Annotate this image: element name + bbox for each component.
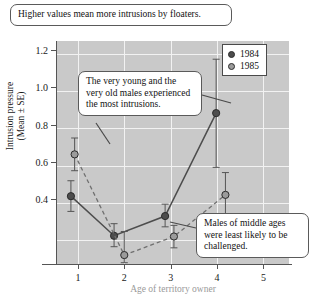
legend-marker-1984-icon [228, 51, 235, 58]
callout-leader-line [96, 123, 110, 144]
legend-label-1985: 1985 [240, 60, 259, 72]
data-point-1984 [213, 110, 220, 117]
legend-item-1985: 1985 [228, 60, 259, 72]
chart-figure: 0.40.60.81.01.21.4 12345 Intrusion press… [0, 0, 319, 296]
data-point-1985 [71, 151, 78, 158]
legend-label-1984: 1984 [240, 48, 259, 60]
series-line-1984 [71, 113, 216, 236]
data-point-1985 [121, 251, 128, 258]
data-point-1984 [162, 212, 169, 219]
data-point-1984 [67, 193, 74, 200]
chart-legend: 1984 1985 [222, 44, 267, 76]
annotation-callout-bottom: Males of middle ages were least likely t… [196, 213, 309, 258]
legend-item-1984: 1984 [228, 48, 259, 60]
data-point-1985 [222, 191, 229, 198]
annotation-callout-top: Higher values mean more intrusions by fl… [10, 4, 232, 26]
annotation-callout-middle: The very young and the very old males ex… [78, 71, 202, 116]
data-point-1985 [170, 233, 177, 240]
legend-marker-1985-icon [228, 63, 235, 70]
